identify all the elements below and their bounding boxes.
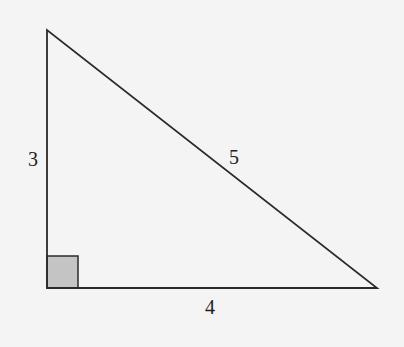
right-triangle bbox=[47, 30, 377, 288]
vertical-leg-label: 3 bbox=[28, 148, 38, 171]
hypotenuse-label: 5 bbox=[229, 146, 239, 169]
right-angle-marker bbox=[47, 256, 78, 288]
horizontal-leg-label: 4 bbox=[205, 296, 215, 319]
triangle-diagram bbox=[0, 0, 404, 347]
